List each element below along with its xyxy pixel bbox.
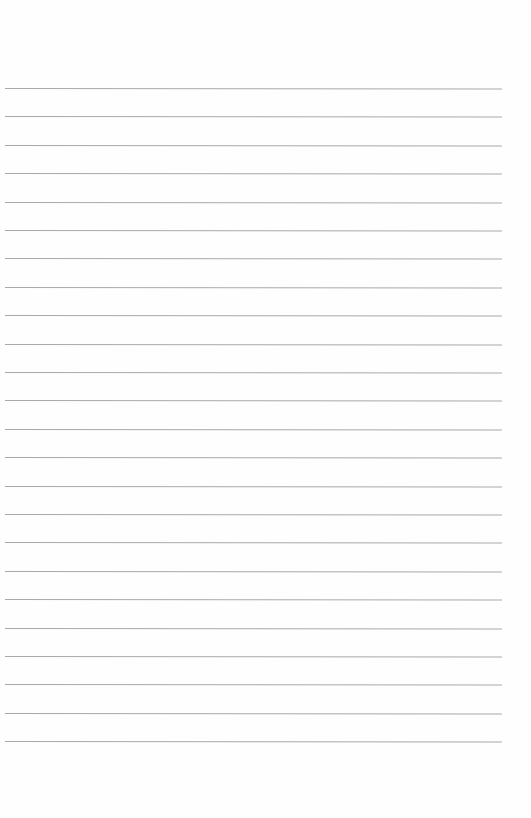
lined-paper-page <box>0 0 531 818</box>
ruled-line <box>5 315 502 316</box>
ruled-line <box>5 628 502 629</box>
ruled-line <box>5 741 502 742</box>
ruled-line <box>5 571 502 572</box>
ruled-line <box>5 344 502 345</box>
ruled-line <box>5 514 502 515</box>
ruled-line <box>5 457 502 458</box>
ruled-line <box>5 486 502 487</box>
ruled-line <box>5 230 502 231</box>
ruled-line <box>5 173 502 174</box>
ruled-line <box>5 258 502 259</box>
ruled-line <box>5 684 502 685</box>
ruled-line <box>5 542 502 543</box>
ruled-line <box>5 116 502 117</box>
ruled-line <box>5 656 502 657</box>
ruled-line <box>5 145 502 146</box>
ruled-line <box>5 202 502 203</box>
ruled-line <box>5 400 502 401</box>
ruled-line <box>5 429 502 430</box>
ruled-line <box>5 372 502 373</box>
ruled-line <box>5 599 502 600</box>
ruled-line <box>5 287 502 288</box>
ruled-line <box>5 713 502 714</box>
ruled-line <box>5 88 502 89</box>
